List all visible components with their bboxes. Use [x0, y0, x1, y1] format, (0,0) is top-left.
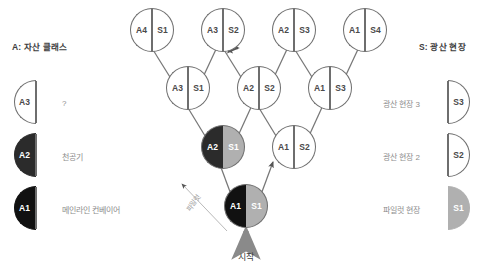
node-asset-label: A2 [202, 142, 223, 152]
node-divider [151, 9, 152, 51]
node-a1-s4[interactable]: A1 S4 [343, 8, 387, 52]
node-a4-s1[interactable]: A4 S1 [130, 8, 174, 52]
node-a2-s1[interactable]: A2 S1 [201, 125, 245, 169]
node-a3-s1[interactable]: A3 S1 [166, 66, 210, 110]
node-asset-label: A3 [202, 25, 223, 35]
legend-item-label: 메인라인 컨베이어 [62, 204, 120, 215]
node-asset-label: A1 [344, 25, 365, 35]
node-asset-half: A1 [308, 66, 330, 110]
node-site-half: S1 [246, 184, 268, 228]
legend-left-title: A: 자산 클래스 [12, 40, 68, 52]
node-asset-half: A2 [201, 125, 223, 169]
legend-swatch: A3 [14, 80, 58, 124]
node-divider [329, 67, 330, 109]
node-a3-s2[interactable]: A3 S2 [201, 8, 245, 52]
node-site-half: S2 [259, 66, 281, 110]
node-site-half: S3 [330, 66, 352, 110]
node-a1-s2[interactable]: A1 S2 [272, 125, 316, 169]
node-a2-s3[interactable]: A2 S3 [272, 8, 316, 52]
diagram-canvas: A4 S1 A3 S2 A2 S3 A1 S4 [0, 0, 491, 274]
node-site-label: S2 [223, 25, 244, 35]
node-asset-label: A1 [225, 201, 246, 211]
legend-swatch: S2 [426, 133, 470, 177]
node-asset-label: A1 [273, 142, 294, 152]
node-site-label: S2 [259, 83, 280, 93]
node-asset-label: A2 [238, 83, 259, 93]
legend-swatch-half: A2 [14, 133, 36, 177]
legend-swatch-divider [35, 187, 36, 229]
legend-swatch-divider [447, 81, 448, 123]
legend-right-item-s2: S2 광산 현장 2 [380, 133, 470, 179]
node-divider [293, 9, 294, 51]
node-site-label: S3 [330, 83, 351, 93]
legend-right-item-s3: S3 광산 현장 3 [380, 80, 470, 126]
node-divider [222, 9, 223, 51]
legend-swatch-divider [35, 134, 36, 176]
node-asset-label: A4 [131, 25, 152, 35]
node-site-label: S1 [152, 25, 173, 35]
node-site-half: S4 [365, 8, 387, 52]
legend-swatch: S3 [426, 80, 470, 124]
node-site-label: S2 [294, 142, 315, 152]
node-site-label: S1 [188, 83, 209, 93]
node-asset-label: A2 [273, 25, 294, 35]
legend-swatch: S1 [426, 186, 470, 230]
legend-swatch-code: S2 [448, 150, 469, 160]
legend-swatch-half: A1 [14, 186, 36, 230]
legend-swatch-code: A2 [14, 150, 35, 160]
legend-item-label: ? [62, 99, 66, 108]
node-divider [258, 67, 259, 109]
node-divider [364, 9, 365, 51]
node-asset-label: A1 [309, 83, 330, 93]
node-asset-half: A1 [272, 125, 294, 169]
start-caption: 시작 [238, 250, 254, 263]
node-site-half: S1 [188, 66, 210, 110]
legend-swatch: A1 [14, 186, 58, 230]
legend-item-label: 광산 현장 2 [383, 151, 420, 162]
node-site-label: S1 [246, 201, 267, 211]
node-asset-label: A3 [167, 83, 188, 93]
node-asset-half: A1 [343, 8, 365, 52]
legend-swatch-half: S1 [448, 186, 470, 230]
legend-item-label: 천공기 [62, 151, 83, 162]
node-site-half: S3 [294, 8, 316, 52]
node-site-label: S3 [294, 25, 315, 35]
legend-right-title: S: 광산 현장 [419, 40, 466, 52]
legend-swatch-code: A1 [14, 203, 35, 213]
node-site-label: S1 [223, 142, 244, 152]
legend-right-item-s1: S1 파일럿 현장 [380, 186, 470, 232]
legend-swatch-divider [35, 81, 36, 123]
node-site-half: S1 [223, 125, 245, 169]
legend-swatch-half: S2 [448, 133, 470, 177]
node-site-label: S4 [365, 25, 386, 35]
legend-swatch-divider [447, 134, 448, 176]
legend-item-label: 파일럿 현장 [383, 204, 420, 215]
node-asset-half: A3 [201, 8, 223, 52]
node-a1-s1-root[interactable]: A1 S1 [224, 184, 268, 228]
node-asset-half: A2 [237, 66, 259, 110]
node-site-half: S2 [294, 125, 316, 169]
legend-swatch-code: A3 [14, 97, 35, 107]
legend-swatch-code: S3 [448, 97, 469, 107]
node-asset-half: A1 [224, 184, 246, 228]
legend-item-label: 광산 현장 3 [383, 98, 420, 109]
node-a1-s3[interactable]: A1 S3 [308, 66, 352, 110]
legend-swatch-code: S1 [448, 203, 469, 213]
legend-swatch-half: A3 [14, 80, 36, 124]
node-asset-half: A2 [272, 8, 294, 52]
node-asset-half: A3 [166, 66, 188, 110]
legend-swatch: A2 [14, 133, 58, 177]
node-site-half: S2 [223, 8, 245, 52]
node-divider [187, 67, 188, 109]
node-divider [293, 126, 294, 168]
legend-swatch-half: S3 [448, 80, 470, 124]
node-asset-half: A4 [130, 8, 152, 52]
node-a2-s2[interactable]: A2 S2 [237, 66, 281, 110]
node-site-half: S1 [152, 8, 174, 52]
